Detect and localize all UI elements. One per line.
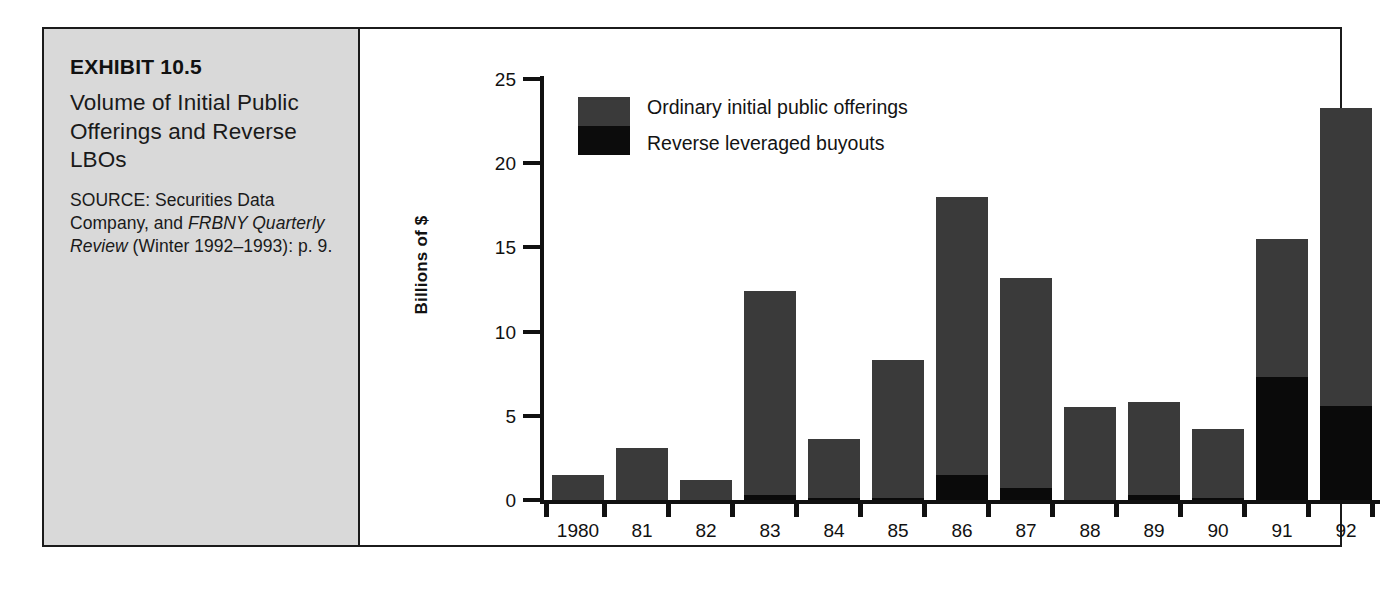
- bar-83: [744, 291, 795, 500]
- bar-86: [936, 197, 987, 500]
- x-axis-tick-start: [544, 500, 549, 517]
- x-axis-tick-85: [922, 500, 927, 517]
- y-axis-tick-label-10: 10: [472, 323, 516, 342]
- bar-87: [1000, 278, 1051, 500]
- caption-panel: EXHIBIT 10.5 Volume of Initial Public Of…: [44, 29, 360, 545]
- legend-label-reverse-lbo: Reverse leveraged buyouts: [647, 134, 908, 154]
- x-axis-tick-label-91: 91: [1250, 521, 1314, 540]
- y-axis-tick-25: [523, 77, 544, 81]
- bar-segment-reverse-lbo-90: [1192, 498, 1243, 500]
- bar-segment-reverse-lbo-92: [1320, 406, 1371, 500]
- bar-segment-reverse-lbo-85: [872, 498, 923, 500]
- bar-84: [808, 439, 859, 500]
- x-axis-tick-label-81: 81: [610, 521, 674, 540]
- y-axis-tick-label-25: 25: [472, 70, 516, 89]
- x-axis-tick-label-83: 83: [738, 521, 802, 540]
- figure-page: EXHIBIT 10.5 Volume of Initial Public Of…: [0, 0, 1388, 597]
- chart-legend: Ordinary initial public offerings Revers…: [578, 97, 908, 155]
- exhibit-number: EXHIBIT 10.5: [70, 55, 336, 79]
- x-axis-tick-label-82: 82: [674, 521, 738, 540]
- x-axis-tick-87: [1050, 500, 1055, 517]
- y-axis-tick-label-20: 20: [472, 154, 516, 173]
- x-axis-tick-81: [666, 500, 671, 517]
- y-axis-tick-5: [523, 414, 544, 418]
- x-axis-tick-label-86: 86: [930, 521, 994, 540]
- y-axis-line: [540, 76, 544, 503]
- bar-segment-ordinary-ipo-82: [680, 480, 731, 500]
- bar-segment-ordinary-ipo-87: [1000, 278, 1051, 489]
- bar-82: [680, 480, 731, 500]
- x-axis-tick-88: [1114, 500, 1119, 517]
- legend-swatch: [578, 97, 630, 155]
- legend-labels: Ordinary initial public offerings Revers…: [647, 97, 908, 155]
- x-axis-tick-1980: [602, 500, 607, 517]
- bar-segment-ordinary-ipo-92: [1320, 108, 1371, 406]
- bar-segment-ordinary-ipo-88: [1064, 407, 1115, 500]
- bar-92: [1320, 108, 1371, 500]
- legend-swatch-reverse-lbo: [578, 126, 630, 155]
- x-axis-tick-label-89: 89: [1122, 521, 1186, 540]
- legend-label-ordinary-ipo: Ordinary initial public offerings: [647, 98, 908, 118]
- legend-swatch-ordinary-ipo: [578, 97, 630, 126]
- bar-81: [616, 448, 667, 500]
- bar-segment-ordinary-ipo-90: [1192, 429, 1243, 498]
- bar-segment-reverse-lbo-87: [1000, 488, 1051, 500]
- x-axis-tick-92: [1370, 500, 1375, 517]
- x-axis-tick-83: [794, 500, 799, 517]
- y-axis-tick-label-15: 15: [472, 238, 516, 257]
- bar-91: [1256, 239, 1307, 500]
- bar-segment-reverse-lbo-89: [1128, 495, 1179, 500]
- x-axis-tick-label-1980: 1980: [546, 521, 610, 540]
- x-axis-tick-86: [986, 500, 991, 517]
- bar-segment-reverse-lbo-86: [936, 475, 987, 500]
- bar-90: [1192, 429, 1243, 500]
- x-axis-tick-91: [1306, 500, 1311, 517]
- y-axis-tick-0: [523, 498, 544, 502]
- x-axis-tick-label-85: 85: [866, 521, 930, 540]
- y-axis-tick-label-0: 0: [472, 491, 516, 510]
- x-axis-tick-label-87: 87: [994, 521, 1058, 540]
- bar-segment-ordinary-ipo-89: [1128, 402, 1179, 495]
- bar-segment-ordinary-ipo-85: [872, 360, 923, 498]
- exhibit-source: SOURCE: Securities Data Company, and FRB…: [70, 189, 336, 259]
- x-axis-tick-label-84: 84: [802, 521, 866, 540]
- y-axis-tick-labels: 0510152025: [460, 29, 516, 545]
- y-axis-title: Billions of $: [412, 216, 432, 315]
- bar-1980: [552, 475, 603, 500]
- x-axis-tick-label-90: 90: [1186, 521, 1250, 540]
- bar-segment-ordinary-ipo-83: [744, 291, 795, 495]
- x-axis-tick-90: [1242, 500, 1247, 517]
- bar-segment-reverse-lbo-83: [744, 495, 795, 500]
- y-axis-tick-label-5: 5: [472, 407, 516, 426]
- bar-89: [1128, 402, 1179, 500]
- chart-area: Billions of $ 0510152025 198081828384858…: [360, 29, 1340, 545]
- y-axis-tick-20: [523, 161, 544, 165]
- bar-88: [1064, 407, 1115, 500]
- y-axis-tick-15: [523, 245, 544, 249]
- bar-segment-ordinary-ipo-81: [616, 448, 667, 500]
- y-axis-tick-10: [523, 330, 544, 334]
- x-axis-tick-label-92: 92: [1314, 521, 1378, 540]
- bar-85: [872, 360, 923, 500]
- exhibit-frame: EXHIBIT 10.5 Volume of Initial Public Of…: [42, 27, 1342, 547]
- x-axis-tick-label-88: 88: [1058, 521, 1122, 540]
- bar-segment-ordinary-ipo-86: [936, 197, 987, 475]
- bar-segment-reverse-lbo-91: [1256, 377, 1307, 500]
- bar-segment-ordinary-ipo-84: [808, 439, 859, 498]
- exhibit-title: Volume of Initial Public Offerings and R…: [70, 89, 336, 175]
- bar-segment-ordinary-ipo-91: [1256, 239, 1307, 377]
- source-suffix: (Winter 1992–1993): p. 9.: [128, 236, 333, 256]
- bar-segment-reverse-lbo-84: [808, 498, 859, 500]
- x-axis-tick-82: [730, 500, 735, 517]
- x-axis-tick-84: [858, 500, 863, 517]
- x-axis-tick-89: [1178, 500, 1183, 517]
- bar-segment-ordinary-ipo-1980: [552, 475, 603, 500]
